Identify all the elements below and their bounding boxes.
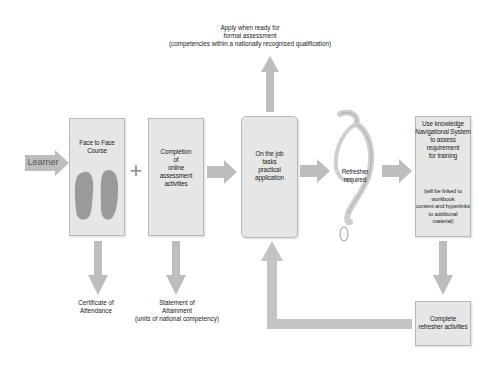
arrow-to-statement [166,241,186,295]
output-statement-label: Statement of Attainment (units of nation… [126,299,228,323]
node-online-assessment-label: Completion of online assessment activiti… [148,148,204,188]
formal-assessment-note: Apply when ready for formal assessment (… [150,24,350,48]
arrow-to-knowledge-nav [382,159,412,183]
node-on-the-job-label: On the job tasks practical application [241,150,298,182]
learner-label: Learner [26,157,60,168]
arrow-to-certificate [88,241,108,295]
node-complete-refresher-label: Complete refresher activities [413,315,473,331]
plus-connector: + [125,160,147,182]
arrow-up-to-assessment [259,56,281,112]
node-face-to-face-label: Face to Face Course [69,139,125,155]
arrow-to-on-the-job [207,160,237,184]
arrow-to-refresher [300,159,330,183]
node-knowledge-nav-sublabel: (will be linked to workbook content and … [413,188,473,226]
return-arrow-to-on-the-job [261,241,413,331]
node-refresher-required-label: Refresher required [332,168,378,184]
node-knowledge-nav-label: Use knowledge Navigational System to ass… [413,120,473,160]
output-certificate-label: Certificate of Attendance [66,299,126,315]
footprints-icon [72,170,122,222]
arrow-to-complete-refresher [433,241,453,295]
